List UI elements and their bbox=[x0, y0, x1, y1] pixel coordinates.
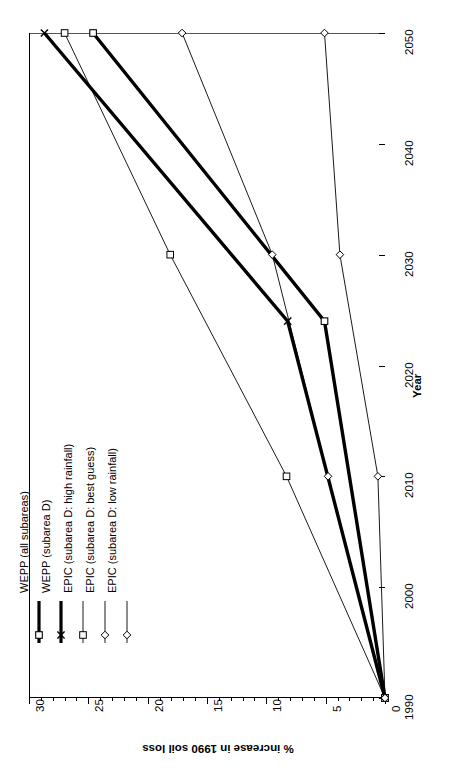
square-marker bbox=[167, 251, 174, 258]
legend-swatch bbox=[96, 599, 114, 645]
legend-item-label: WEPP (subarea D) bbox=[40, 500, 52, 593]
diamond-marker bbox=[321, 29, 329, 37]
square-marker bbox=[321, 318, 328, 325]
diamond-marker bbox=[178, 29, 186, 37]
chart-canvas: 0510152025301990200020102020203020402050… bbox=[0, 0, 453, 772]
square-marker bbox=[90, 30, 97, 37]
diamond-marker bbox=[336, 251, 344, 259]
diamond-marker bbox=[123, 631, 131, 639]
legend-swatch bbox=[74, 599, 92, 645]
legend-swatch bbox=[118, 599, 136, 645]
square-marker bbox=[283, 473, 290, 480]
legend: WEPP (all subareas)WEPP (subarea D)EPIC … bbox=[30, 395, 142, 655]
square-marker bbox=[61, 30, 68, 37]
legend-swatch bbox=[30, 599, 48, 645]
legend-item-label: EPIC (subarea D: low rainfall) bbox=[106, 448, 118, 593]
series-line bbox=[182, 33, 385, 698]
legend-item-label: WEPP (all subareas) bbox=[18, 491, 30, 593]
diamond-marker bbox=[101, 631, 109, 639]
series-line bbox=[325, 33, 386, 698]
diamond-marker bbox=[374, 473, 382, 481]
square-marker bbox=[36, 632, 43, 639]
series-layer bbox=[0, 0, 453, 772]
legend-item-label: EPIC (subarea D: high rainfall) bbox=[62, 444, 74, 593]
legend-swatch bbox=[52, 599, 70, 645]
legend-item-label: EPIC (subarea D: best guess) bbox=[84, 447, 96, 593]
legend-item: EPIC (subarea D: low rainfall) bbox=[118, 395, 136, 645]
square-marker bbox=[80, 632, 87, 639]
series-3 bbox=[178, 29, 389, 702]
